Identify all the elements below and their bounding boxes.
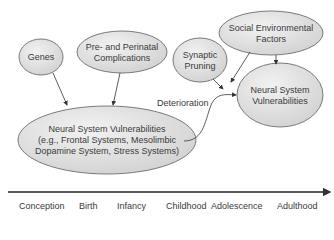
pruning-arrow xyxy=(213,79,223,89)
vuln-late-label: Neural System Vulnerabilities xyxy=(237,85,323,107)
timeline-label: Adulthood xyxy=(277,201,318,211)
deterioration-label: Deterioration xyxy=(157,98,209,109)
timeline-label: Birth xyxy=(79,201,98,211)
genes-arrow xyxy=(53,73,67,105)
perinatal-label: Pre- and Perinatal Complications xyxy=(77,42,167,64)
perinatal-arrow xyxy=(113,73,120,105)
vuln-early-label: Neural System Vulnerabilities (e.g., Fro… xyxy=(18,124,196,157)
timeline-label: Conception xyxy=(19,201,65,211)
timeline-label: Childhood xyxy=(166,201,207,211)
genes-label: Genes xyxy=(19,52,63,63)
timeline-label: Adolescence xyxy=(211,201,263,211)
timeline-label: Infancy xyxy=(117,201,146,211)
pruning-label: Synaptic Pruning xyxy=(173,50,227,72)
social-label: Social Environmental Factors xyxy=(219,23,323,45)
